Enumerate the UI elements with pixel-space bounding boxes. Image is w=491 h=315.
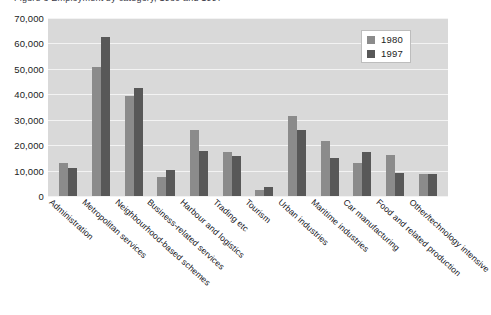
bar-group bbox=[117, 18, 150, 196]
y-axis-tick-label: 40,000 bbox=[14, 89, 44, 100]
x-axis-category-label: Maritime industries bbox=[309, 197, 371, 254]
y-axis-tick-label: 50,000 bbox=[14, 63, 44, 74]
bar-1980 bbox=[255, 190, 264, 196]
y-axis-tick-label: 0 bbox=[39, 191, 44, 202]
figure-title-clipped: Figure 3 Employment by category, 1980 an… bbox=[14, 0, 344, 3]
bar-group bbox=[150, 18, 183, 196]
bar-group bbox=[85, 18, 118, 196]
bar-1997 bbox=[297, 130, 306, 196]
bar-1997 bbox=[232, 156, 241, 196]
bar-group bbox=[411, 18, 444, 196]
bar-1997 bbox=[428, 174, 437, 196]
legend-swatch-icon bbox=[367, 36, 375, 44]
legend-label: 1980 bbox=[381, 34, 403, 45]
bar-1980 bbox=[288, 116, 297, 196]
bar-1997 bbox=[199, 151, 208, 196]
bar-1997 bbox=[395, 173, 404, 196]
bar-1980 bbox=[157, 177, 166, 196]
bar-1980 bbox=[419, 174, 428, 196]
bar-1980 bbox=[386, 155, 395, 196]
y-axis-tick-label: 20,000 bbox=[14, 140, 44, 151]
y-axis-tick-label: 70,000 bbox=[14, 13, 44, 24]
bar-1980 bbox=[125, 96, 134, 196]
bar-group bbox=[52, 18, 85, 196]
bar-1997 bbox=[330, 158, 339, 196]
bar-1980 bbox=[190, 130, 199, 196]
chart-legend: 19801997 bbox=[361, 30, 411, 63]
bar-1980 bbox=[321, 141, 330, 196]
y-axis-tick-label: 30,000 bbox=[14, 114, 44, 125]
bar-1997 bbox=[166, 170, 175, 196]
bar-1980 bbox=[59, 163, 68, 196]
x-axis-category-label: Tourism bbox=[244, 197, 274, 225]
legend-swatch-icon bbox=[367, 50, 375, 58]
bar-1980 bbox=[223, 152, 232, 196]
bar-1997 bbox=[134, 88, 143, 196]
bar-1980 bbox=[353, 163, 362, 196]
bar-1997 bbox=[68, 168, 77, 196]
y-axis-tick-label: 60,000 bbox=[14, 38, 44, 49]
bar-group bbox=[215, 18, 248, 196]
bar-group bbox=[248, 18, 281, 196]
bar-1980 bbox=[92, 67, 101, 196]
x-axis-category-label: Car manufacturing bbox=[342, 197, 402, 253]
legend-entry: 1980 bbox=[367, 34, 403, 45]
bar-1997 bbox=[264, 187, 273, 196]
bar-group bbox=[281, 18, 314, 196]
bar-1997 bbox=[101, 37, 110, 196]
y-axis-tick-label: 10,000 bbox=[14, 165, 44, 176]
bar-group bbox=[183, 18, 216, 196]
legend-label: 1997 bbox=[381, 48, 403, 59]
bar-1997 bbox=[362, 152, 371, 196]
x-axis-category-labels: AdministrationMetropolitan servicesNeigh… bbox=[48, 197, 448, 315]
bar-group bbox=[313, 18, 346, 196]
y-axis: 010,00020,00030,00040,00050,00060,00070,… bbox=[0, 18, 44, 196]
legend-entry: 1997 bbox=[367, 48, 403, 59]
